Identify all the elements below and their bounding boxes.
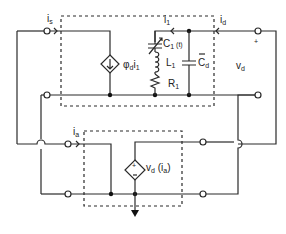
label-c1t: C1 (t) bbox=[163, 38, 183, 50]
terminal-lower-top-right bbox=[200, 139, 206, 145]
right-outer-wire bbox=[238, 31, 276, 144]
ground-arrow-icon bbox=[131, 210, 139, 217]
label-is: is bbox=[47, 13, 53, 25]
label-plus: + bbox=[254, 38, 258, 45]
terminal-vd-minus bbox=[255, 92, 261, 98]
circuit-diagram: + is i1 id C1 (t) L1 R1 Cd φdi1 vd + ia … bbox=[0, 0, 286, 234]
terminal-is bbox=[44, 28, 50, 34]
label-cd: Cd bbox=[198, 57, 209, 69]
svg-text:+: + bbox=[132, 162, 136, 169]
junction-dot bbox=[109, 192, 113, 196]
terminal-lower-bottom-right bbox=[200, 191, 206, 197]
label-vd-ia: vd (ia) bbox=[146, 162, 171, 174]
wire bbox=[71, 144, 111, 194]
wire-ia bbox=[17, 140, 65, 144]
label-r1: R1 bbox=[168, 78, 179, 90]
terminal-upper-bottom-left bbox=[44, 92, 50, 98]
varactor-c1 bbox=[148, 31, 162, 54]
capacitor-cd bbox=[182, 31, 196, 95]
junction-dot bbox=[108, 93, 112, 97]
label-l1: L1 bbox=[166, 57, 176, 69]
terminal-lower-bottom-left bbox=[65, 191, 71, 197]
wire bbox=[135, 142, 200, 160]
dependent-current-source bbox=[101, 55, 119, 73]
wire-is bbox=[50, 31, 110, 55]
label-ia: ia bbox=[73, 126, 79, 138]
resistor-r1 bbox=[151, 74, 159, 95]
label-vd: vd bbox=[236, 60, 245, 72]
label-phi-d-i1: φdi1 bbox=[123, 59, 140, 71]
terminal-ia bbox=[65, 141, 71, 147]
dependent-voltage-source: + bbox=[125, 160, 145, 180]
inductor-l1 bbox=[155, 52, 159, 74]
terminal-vd-plus bbox=[255, 28, 261, 34]
label-id: id bbox=[220, 14, 226, 26]
